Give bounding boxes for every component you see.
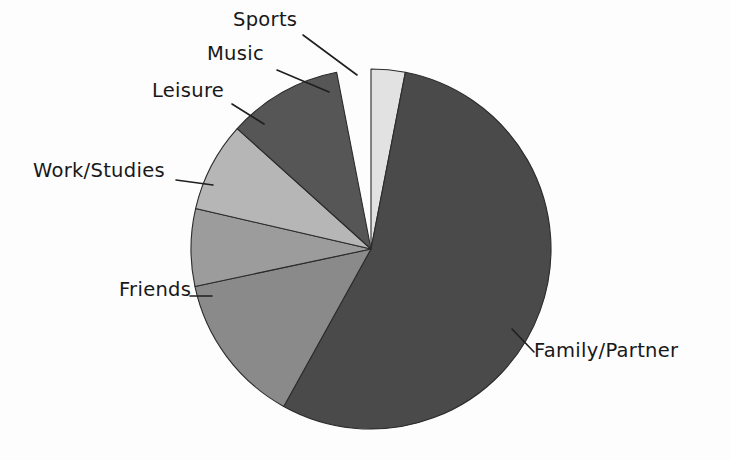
pie-label-work-studies: Work/Studies	[33, 161, 165, 181]
pie-label-friends: Friends	[119, 280, 191, 300]
leader-line-sports	[303, 35, 357, 75]
pie-chart: Sports Music Leisure Work/Studies Friend…	[0, 0, 730, 460]
pie-label-sports: Sports	[233, 10, 297, 30]
pie-label-family-partner: Family/Partner	[534, 341, 678, 361]
pie-chart-canvas	[0, 0, 730, 460]
pie-label-leisure: Leisure	[152, 81, 224, 101]
pie-label-music: Music	[207, 44, 264, 64]
pie-slices-group	[191, 69, 551, 429]
